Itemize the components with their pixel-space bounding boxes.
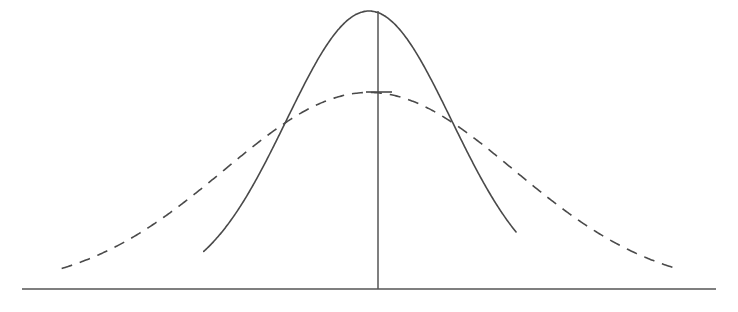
figure-container <box>0 0 738 312</box>
plot-background <box>0 0 738 312</box>
distribution-chart-svg <box>0 0 738 312</box>
